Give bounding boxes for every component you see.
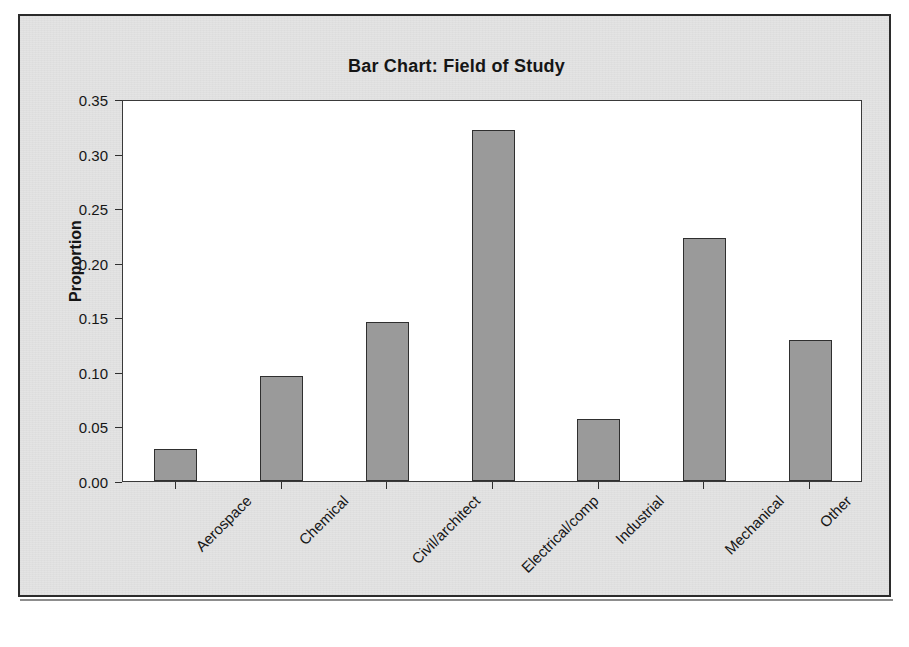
- figure-frame: Bar Chart: Field of Study Proportion 0.0…: [18, 14, 891, 597]
- bar: [260, 376, 303, 481]
- bar: [683, 238, 726, 481]
- y-axis-tick-mark: [115, 482, 122, 483]
- y-axis-tick-label: 0.00: [54, 474, 108, 491]
- bar: [472, 130, 515, 481]
- x-axis-tick-label: Chemical: [295, 492, 351, 548]
- y-axis-tick-label: 0.05: [54, 419, 108, 436]
- x-axis-tick-label: Industrial: [612, 492, 667, 547]
- y-axis-tick-label: 0.30: [54, 146, 108, 163]
- x-axis-tick-mark: [281, 482, 282, 489]
- y-axis-tick-label: 0.20: [54, 255, 108, 272]
- x-axis-tick-mark: [703, 482, 704, 489]
- y-axis-tick-mark: [115, 100, 122, 101]
- y-axis-tick-mark: [115, 264, 122, 265]
- bar: [789, 340, 832, 481]
- y-axis-tick-mark: [115, 209, 122, 210]
- y-axis-tick-mark: [115, 427, 122, 428]
- x-axis-tick-mark: [175, 482, 176, 489]
- x-axis-tick-label: Aerospace: [192, 492, 255, 555]
- y-axis-tick-label: 0.35: [54, 92, 108, 109]
- y-axis-tick-label: 0.15: [54, 310, 108, 327]
- y-axis-tick-label: 0.25: [54, 201, 108, 218]
- x-axis-tick-label: Electrical/comp: [518, 492, 602, 576]
- y-axis-tick-mark: [115, 318, 122, 319]
- x-axis-tick-label: Other: [816, 492, 855, 531]
- y-axis-tick-mark: [115, 373, 122, 374]
- bar: [366, 322, 409, 481]
- bar: [154, 449, 197, 481]
- plot-area: [122, 100, 862, 482]
- y-axis-tick-mark: [115, 155, 122, 156]
- x-axis-tick-mark: [598, 482, 599, 489]
- y-axis: 0.000.050.100.150.200.250.300.35: [20, 16, 122, 482]
- y-axis-tick-label: 0.10: [54, 364, 108, 381]
- x-axis-tick-mark: [809, 482, 810, 489]
- scan-edge-line: [20, 599, 893, 601]
- x-axis-tick-mark: [386, 482, 387, 489]
- chart-title: Bar Chart: Field of Study: [20, 56, 893, 77]
- x-axis-tick-label: Mechanical: [722, 492, 788, 558]
- x-axis-tick-label: Civil/architect: [408, 492, 483, 567]
- x-axis-tick-mark: [492, 482, 493, 489]
- bar: [577, 419, 620, 481]
- x-axis: AerospaceChemicalCivil/architectElectric…: [122, 482, 882, 592]
